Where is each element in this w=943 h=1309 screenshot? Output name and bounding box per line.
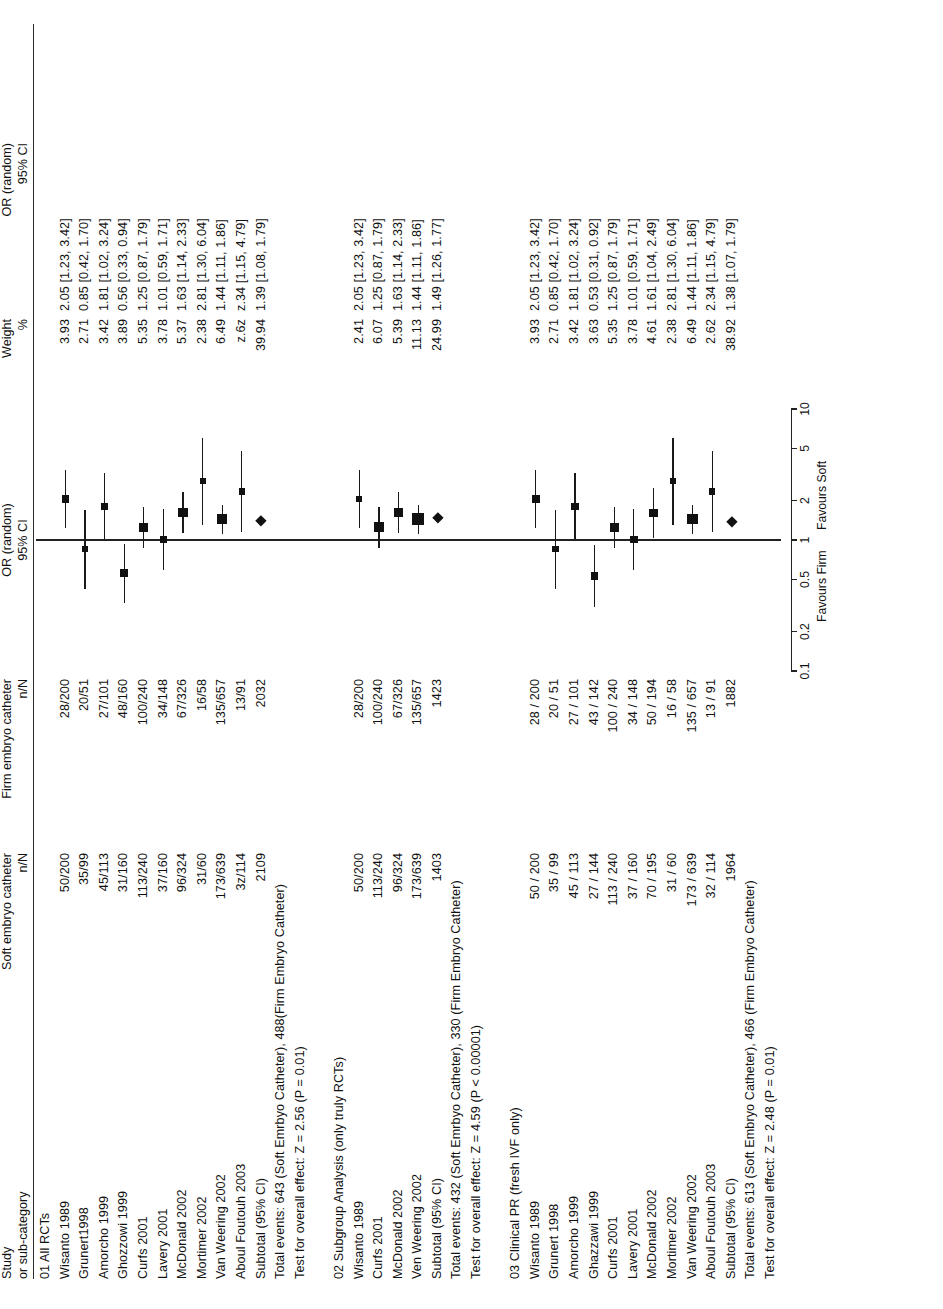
row-soft-value: 113 / 240 — [604, 853, 624, 1021]
row-weight-value: 6.49 — [683, 319, 703, 405]
table-row: Ven Weering 2002173/639135/65711.131.44 … — [408, 24, 428, 1279]
subtotal-firm-total: 2032 — [252, 679, 272, 847]
row-weight-value: 2.41 — [350, 319, 370, 405]
axis-tick — [791, 500, 797, 501]
group-spacer — [310, 24, 330, 1279]
row-soft-value: 31 / 60 — [663, 853, 683, 1021]
header-study-line2: or sub-category — [16, 1021, 32, 1279]
total-events-row: Total events: 643 (Soft Emrbyo Catheter)… — [271, 24, 291, 1279]
total-events-text: Total events: 432 (Soft Emrbyo Catheter)… — [447, 579, 467, 1279]
row-soft-value: 35 / 99 — [545, 853, 565, 1021]
table-row: Amorcho 199945 / 11327 / 1013.421.81 [1.… — [565, 24, 585, 1279]
table-row: Mortimer 200231 / 6016 / 582.382.81 [1.3… — [663, 24, 683, 1279]
axis-tick-label: 5 — [798, 445, 812, 452]
row-or-value: 1.25 [0.87, 1.79] — [369, 143, 389, 311]
axis-tick — [791, 631, 797, 632]
favours-firm-label: Favours Firm — [815, 550, 829, 622]
row-study-name: Aboul Foutouh 2003 — [702, 1021, 722, 1279]
header-weight-line2: % — [16, 319, 32, 405]
row-study-name: Wisanto 1989 — [526, 1021, 546, 1279]
table-row: Aboul Foutouh 20033z/11413/91z.6zz.34 [1… — [232, 24, 252, 1279]
row-soft-value: 173/639 — [408, 853, 428, 1021]
row-soft-value: 27 / 144 — [585, 853, 605, 1021]
subtotal-firm-total: 1882 — [722, 679, 742, 847]
row-weight-value: 3.42 — [95, 319, 115, 405]
group-title: 03 Clinical PR (fresh IVF only) — [506, 1021, 526, 1279]
row-firm-value: 27/101 — [95, 679, 115, 847]
table-row: Grunert199835/9920/512.710.85 [0.42, 1.7… — [75, 24, 95, 1279]
row-weight-value: 3.78 — [624, 319, 644, 405]
test-effect-text: Test for overall effect: Z = 4.59 (P < 0… — [467, 579, 487, 1279]
row-study-name: Wisanto 1989 — [56, 1021, 76, 1279]
table-row: Ghozzowi 199931/16048/1603.890.56 [0.33,… — [114, 24, 134, 1279]
row-study-name: McDonald 2002 — [643, 1021, 663, 1279]
row-firm-value: 28/200 — [56, 679, 76, 847]
axis-tick — [791, 579, 797, 580]
table-header: Study or sub-category Soft embryo cathet… — [0, 24, 34, 1279]
table-row: Curfs 2001113 / 240100 / 2405.351.25 [0.… — [604, 24, 624, 1279]
row-weight-value: 2.71 — [545, 319, 565, 405]
subtotal-or-value: 1.39 [1.08, 1.79] — [252, 143, 272, 311]
header-soft-line2: n/N — [16, 853, 32, 1021]
header-plot-line2: 95% CI — [16, 409, 32, 671]
row-weight-value: 5.39 — [389, 319, 409, 405]
row-soft-value: 31/160 — [114, 853, 134, 1021]
row-firm-value: 20 / 51 — [545, 679, 565, 847]
subtotal-label: Subtotal (95% CI) — [252, 1021, 272, 1279]
row-firm-value: 50 / 194 — [643, 679, 663, 847]
subtotal-or-value: 1.49 [1.26, 1.77] — [428, 143, 448, 311]
subtotal-label: Subtotal (95% CI) — [722, 1021, 742, 1279]
header-study: Study or sub-category — [0, 1021, 34, 1279]
row-weight-value: 3.63 — [585, 319, 605, 405]
header-study-line1: Study — [0, 1021, 16, 1279]
row-weight-value: 4.61 — [643, 319, 663, 405]
table-row: Aboul Foutouh 200332 / 11413 / 912.622.3… — [702, 24, 722, 1279]
row-study-name: Grunert1998 — [75, 1021, 95, 1279]
subtotal-soft-total: 1403 — [428, 853, 448, 1021]
row-firm-value: 100 / 240 — [604, 679, 624, 847]
test-effect-row: Test for overall effect: Z = 2.48 (P = 0… — [761, 24, 781, 1279]
row-soft-value: 31/60 — [193, 853, 213, 1021]
axis-tick-label: 2 — [798, 497, 812, 504]
row-weight-value: z.6z — [232, 319, 252, 405]
axis-tick — [791, 539, 797, 540]
row-study-name: McDonald 2002 — [173, 1021, 193, 1279]
axis-tick — [791, 448, 797, 449]
total-events-text: Total events: 643 (Soft Emrbyo Catheter)… — [271, 579, 291, 1279]
axis-tick — [791, 408, 797, 409]
axis-tick-label: 1 — [798, 537, 812, 544]
row-study-name: Van Weering 2002 — [683, 1021, 703, 1279]
row-firm-value: 135/657 — [408, 679, 428, 847]
favours-soft-label: Favours Soft — [815, 461, 829, 530]
header-plot: OR (random) 95% CI — [0, 409, 34, 671]
row-firm-value: 13 / 91 — [702, 679, 722, 847]
group-title: 01 All RCTs — [36, 1021, 56, 1279]
row-or-value: 1.44 [1.11, 1.86] — [408, 143, 428, 311]
header-firm: Firm embryo catheter n/N — [0, 679, 34, 847]
row-firm-value: 13/91 — [232, 679, 252, 847]
row-soft-value: 173/639 — [212, 853, 232, 1021]
header-or-line1: OR (random) — [0, 143, 16, 311]
row-study-name: Grunert 1998 — [545, 1021, 565, 1279]
row-firm-value: 27 / 101 — [565, 679, 585, 847]
row-weight-value: 3.93 — [56, 319, 76, 405]
row-study-name: Amorcho 1999 — [565, 1021, 585, 1279]
row-or-value: 1.81 [1.02, 3.24] — [565, 143, 585, 311]
table-row: McDonald 200296/32467/3265.391.63 [1.14,… — [389, 24, 409, 1279]
forest-table-body: 01 All RCTsWisanto 198950/20028/2003.932… — [36, 24, 781, 1279]
row-study-name: Curfs 2001 — [604, 1021, 624, 1279]
row-or-value: 2.81 [1.30, 6.04] — [663, 143, 683, 311]
row-or-value: 1.25 [0.87, 1.79] — [134, 143, 154, 311]
row-or-value: 1.61 [1.04, 2.49] — [643, 143, 663, 311]
group-title: 02 Subgroup Analysis (only truly RCTs) — [330, 1021, 350, 1279]
row-weight-value: 2.38 — [193, 319, 213, 405]
row-or-value: 1.44 [1.11, 1.86] — [683, 143, 703, 311]
row-soft-value: 45 / 113 — [565, 853, 585, 1021]
row-firm-value: 28/200 — [350, 679, 370, 847]
test-effect-row: Test for overall effect: Z = 2.56 (P = 0… — [291, 24, 311, 1279]
header-firm-line1: Firm embryo catheter — [0, 679, 16, 847]
row-or-value: 2.34 [1.15, 4.79] — [702, 143, 722, 311]
row-weight-value: 2.38 — [663, 319, 683, 405]
subtotal-firm-total: 1423 — [428, 679, 448, 847]
table-row: McDonald 200296/32467/3265.371.63 [1.14,… — [173, 24, 193, 1279]
